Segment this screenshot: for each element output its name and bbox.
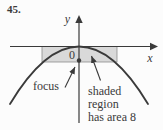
figure-canvas: y x 0 focus shaded region has area 8 45. bbox=[0, 0, 163, 130]
textbook-figure-page: y x 0 focus shaded region has area 8 45. bbox=[0, 0, 163, 130]
y-axis-label: y bbox=[64, 12, 71, 26]
x-axis-arrow-icon bbox=[150, 43, 158, 50]
shaded-region-label-line-1: shaded bbox=[88, 84, 121, 98]
focus-arrow bbox=[65, 67, 75, 88]
shaded-region-label-line-2: region bbox=[88, 97, 119, 111]
focus-label: focus bbox=[33, 79, 59, 93]
x-axis-label: x bbox=[146, 51, 153, 65]
origin-label: 0 bbox=[69, 48, 75, 62]
y-axis-arrow-icon bbox=[75, 15, 82, 23]
shaded-region-label-line-3: has area 8 bbox=[88, 110, 136, 124]
problem-number: 45. bbox=[7, 3, 21, 15]
focus-point bbox=[77, 58, 81, 62]
